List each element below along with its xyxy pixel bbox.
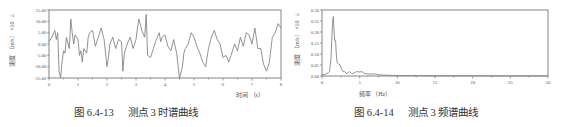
time-history-figure: 速度 （m/s） ×10 -3 15.0010.005.000.00-5.00-…: [0, 0, 290, 127]
x-tick-label: 0: [321, 80, 324, 85]
spectrum-chart: 速度 （m/s） ×10 -3 0.300.250.200.150.100.05…: [290, 0, 573, 100]
svg-text:速度 （m/s） ×10: 速度 （m/s） ×10: [293, 20, 301, 65]
y-tick-label: -5.00: [36, 53, 46, 58]
x-tick-label: 30: [546, 80, 551, 85]
y-tick-label: -15.00: [34, 76, 47, 81]
x-tick-label: 5: [193, 82, 196, 87]
x-axis-ticks: 051015202530: [321, 76, 551, 85]
x-tick-label: 6: [222, 82, 225, 87]
svg-text:速度 （m/s） ×10: 速度 （m/s） ×10: [8, 21, 16, 66]
x-tick-label: 5: [358, 80, 361, 85]
plot-frame: [322, 10, 548, 76]
x-tick-label: 2: [106, 82, 109, 87]
spectrum-figure: 速度 （m/s） ×10 -3 0.300.250.200.150.100.05…: [290, 0, 573, 127]
y-tick-label: 0.00: [311, 74, 320, 79]
x-tick-label: 0: [48, 82, 51, 87]
figure-caption: 图 6.4-14测点 3 频谱曲线: [354, 104, 478, 119]
y-tick-label: 5.00: [38, 30, 47, 35]
svg-text:-3: -3: [295, 12, 300, 17]
plot-frame: [49, 10, 281, 78]
y-tick-label: 0.25: [311, 19, 320, 24]
x-tick-label: 25: [508, 80, 513, 85]
caption-text: 测点 3 频谱曲线: [408, 107, 479, 118]
y-axis-label: 速度 （m/s） ×10 -3: [293, 12, 301, 66]
figure-caption: 图 6.4-13测点 3 时谱曲线: [74, 104, 198, 119]
waveform-line: [49, 15, 281, 79]
x-tick-label: 10: [395, 80, 400, 85]
y-tick-label: 0.30: [311, 8, 320, 13]
caption-text: 测点 3 时谱曲线: [128, 107, 199, 118]
time-history-chart: 速度 （m/s） ×10 -3 15.0010.005.000.00-5.00-…: [0, 0, 290, 100]
x-axis-label: 频率 （Hz）: [359, 90, 392, 98]
y-axis-ticks: 15.0010.005.000.00-5.00-10.00-15.00: [34, 8, 49, 81]
y-tick-label: -10.00: [34, 64, 47, 69]
spectrum-line: [322, 17, 548, 76]
y-axis-ticks: 0.300.250.200.150.100.050.00: [311, 8, 322, 79]
x-tick-label: 20: [470, 80, 475, 85]
y-tick-label: 0.15: [311, 41, 320, 46]
y-tick-label: 0.20: [311, 30, 320, 35]
svg-text:-3: -3: [10, 13, 15, 18]
x-tick-label: 4: [164, 82, 167, 87]
x-axis-ticks: 012345678: [48, 78, 283, 87]
y-tick-label: 0.00: [38, 42, 47, 47]
x-axis-label: 时间 （s）: [236, 91, 264, 99]
x-tick-label: 8: [280, 82, 283, 87]
x-tick-label: 15: [433, 80, 438, 85]
x-tick-label: 3: [135, 82, 138, 87]
y-tick-label: 0.05: [311, 63, 320, 68]
caption-number: 图 6.4-13: [74, 107, 114, 118]
y-tick-label: 0.10: [311, 52, 320, 57]
y-tick-label: 15.00: [36, 8, 47, 13]
y-tick-label: 10.00: [36, 19, 47, 24]
caption-number: 图 6.4-14: [354, 107, 394, 118]
x-tick-label: 7: [251, 82, 254, 87]
x-tick-label: 1: [77, 82, 80, 87]
y-axis-label: 速度 （m/s） ×10 -3: [8, 13, 16, 67]
